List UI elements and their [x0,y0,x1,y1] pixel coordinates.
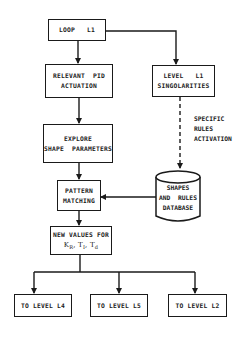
node-level-l1-singolarities: LEVEL L1 SINGOLARITIES [152,65,215,97]
node-to-level-l5: TO LEVEL L5 [90,294,148,317]
node-l2-label: TO LEVEL L2 [176,301,220,311]
node-level-line1: LEVEL L1 [164,71,204,81]
node-explore-line1: EXPLORE [64,134,92,144]
annotation-line2: RULES [194,124,232,134]
node-pattern-line2: MATCHING [63,196,95,206]
flowchart-canvas: LOOP L1 RELEVANT PID ACTUATION LEVEL L1 … [0,0,246,340]
node-loop-l1: LOOP L1 [48,19,106,41]
node-explore-shape-parameters: EXPLORE SHAPE PARAMETERS [43,124,113,163]
node-pattern-matching: PATTERN MATCHING [57,180,101,211]
node-level-line2: SINGOLARITIES [158,81,210,91]
node-loop-label: LOOP L1 [59,25,95,35]
node-newvalues-line2: KR, TI, Td [64,240,98,252]
connector-layer [0,0,246,340]
node-pid-line1: RELEVANT PID [53,71,105,81]
node-db-line3: DATABASE [156,203,200,213]
node-newvalues-line1: NEW VALUES FOR [53,230,109,240]
node-shapes-rules-database-label: SHAPES AND RULES DATABASE [156,183,200,213]
annotation-line3: ACTIVATION [194,134,232,144]
node-pattern-line1: PATTERN [65,186,93,196]
node-pid-line2: ACTUATION [61,81,97,91]
param-td-sub: d [95,244,98,250]
node-new-values: NEW VALUES FOR KR, TI, Td [50,226,112,255]
node-db-line2: AND RULES [156,193,200,203]
node-db-line1: SHAPES [156,183,200,193]
annotation-specific-rules-activation: SPECIFIC RULES ACTIVATION [194,114,232,144]
annotation-line1: SPECIFIC [194,114,232,124]
node-relevant-pid-actuation: RELEVANT PID ACTUATION [45,64,113,98]
node-l5-label: TO LEVEL L5 [97,301,141,311]
edge-loop-to-level [105,31,176,64]
node-l4-label: TO LEVEL L4 [21,301,65,311]
node-to-level-l2: TO LEVEL L2 [168,294,227,317]
node-explore-line2: SHAPE PARAMETERS [44,144,112,154]
node-to-level-l4: TO LEVEL L4 [14,294,72,317]
